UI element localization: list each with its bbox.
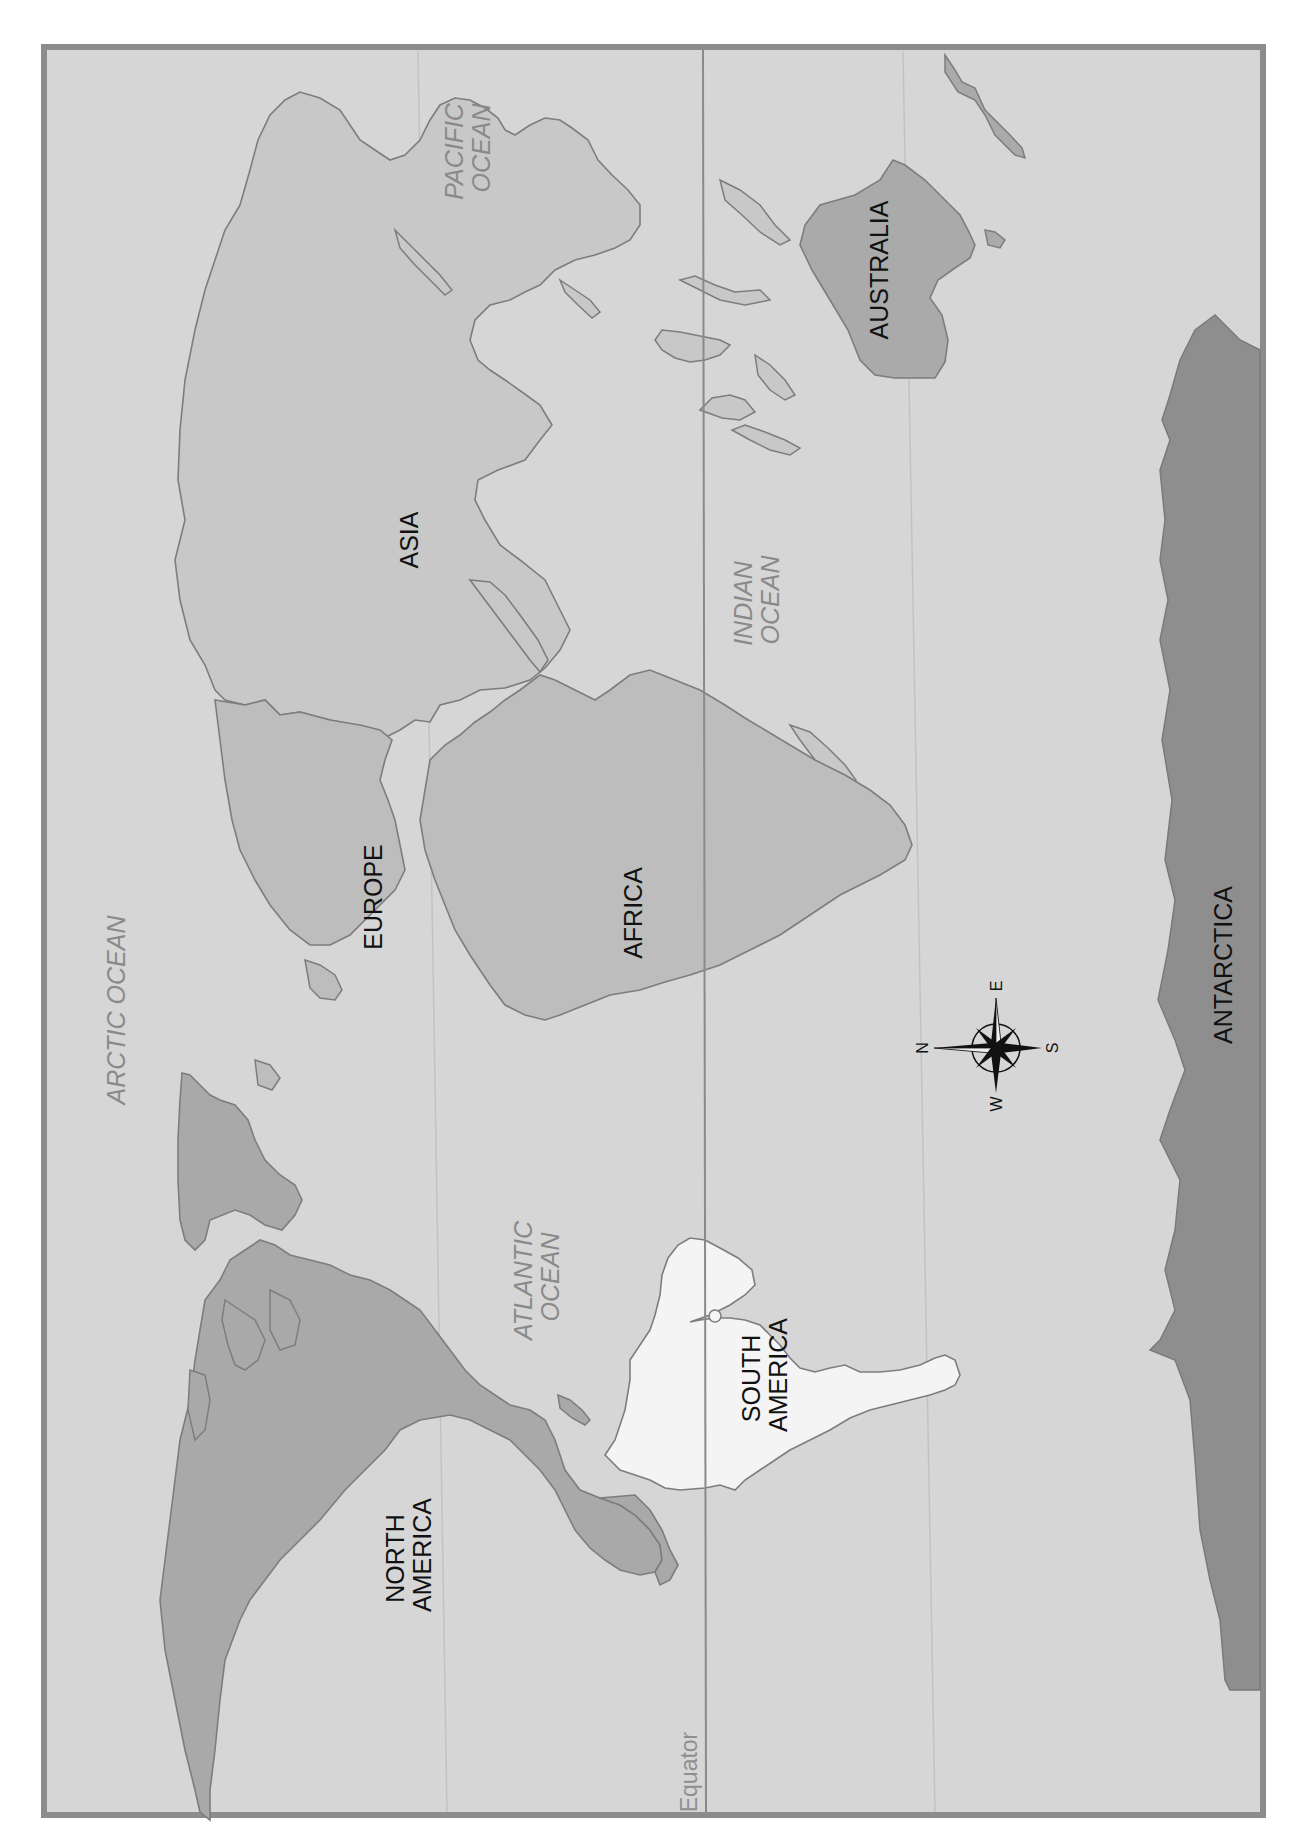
label-asia: ASIA [395, 511, 423, 568]
label-australia: AUSTRALIA [865, 200, 893, 339]
label-pacific-ocean: PACIFIC OCEAN [440, 96, 495, 200]
compass-s-label: S [1044, 1043, 1061, 1054]
compass-e-label: E [988, 981, 1005, 992]
label-arctic-ocean: ARCTIC OCEAN [102, 915, 130, 1107]
label-equator: Equator [676, 1731, 702, 1812]
compass-n-label: N [914, 1042, 931, 1054]
label-antarctica: ANTARCTICA [1209, 886, 1237, 1044]
compass-w-label: W [988, 1096, 1005, 1112]
label-africa: AFRICA [619, 867, 647, 959]
label-europe: EUROPE [359, 844, 387, 950]
label-south-america: SOUTH AMERICA [737, 1318, 792, 1432]
label-north-america: NORTH AMERICA [381, 1498, 436, 1612]
lake-titicaca [709, 1310, 721, 1322]
label-indian-ocean: INDIAN OCEAN [729, 554, 784, 646]
world-map: NORTH AMERICA SOUTH AMERICA EUROPE AFRIC… [0, 0, 1300, 1839]
